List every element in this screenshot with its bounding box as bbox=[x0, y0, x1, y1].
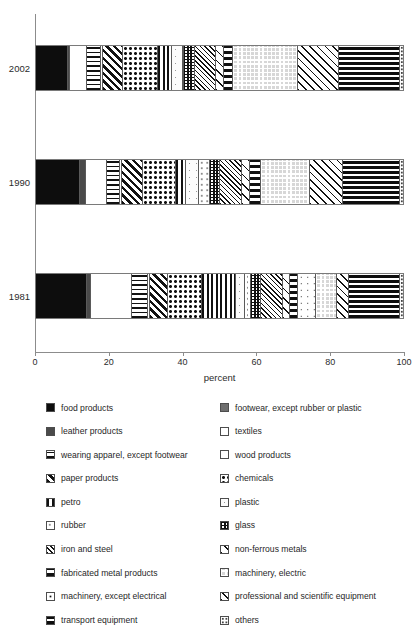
bar-segment bbox=[107, 160, 120, 204]
legend-item: textiles bbox=[220, 420, 415, 444]
legend-item: rubber bbox=[46, 514, 221, 538]
legend-item-label: food products bbox=[61, 404, 113, 413]
x-tick-label: 80 bbox=[315, 357, 345, 367]
bar-segment bbox=[36, 274, 87, 318]
bar-segment bbox=[261, 274, 283, 318]
bar-segment bbox=[36, 160, 80, 204]
legend-item: iron and steel bbox=[46, 538, 221, 562]
bar-segment bbox=[400, 46, 403, 90]
legend-swatch-icon bbox=[46, 427, 55, 436]
legend-item-label: rubber bbox=[61, 521, 86, 530]
bar-segment bbox=[132, 274, 149, 318]
x-axis-title: percent bbox=[35, 372, 404, 383]
legend-item: machinery, except electrical bbox=[46, 585, 221, 609]
legend-item: petro bbox=[46, 490, 221, 514]
legend-swatch-icon bbox=[220, 498, 229, 507]
legend-item-label: chemicals bbox=[235, 474, 273, 483]
legend-item-label: plastic bbox=[235, 498, 259, 507]
legend-swatch-icon bbox=[46, 568, 55, 577]
legend-item-label: professional and scientific equipment bbox=[235, 592, 376, 601]
legend-swatch-icon bbox=[220, 616, 229, 625]
bar-1990 bbox=[35, 159, 404, 205]
bar-segment bbox=[400, 274, 403, 318]
bar-segment bbox=[349, 274, 400, 318]
legend-swatch-icon bbox=[46, 616, 55, 625]
x-axis-line bbox=[35, 352, 404, 353]
bar-segment bbox=[103, 46, 122, 90]
bar-segment bbox=[290, 274, 298, 318]
bar-segment bbox=[70, 46, 87, 90]
bar-segment bbox=[86, 160, 107, 204]
bar-segment bbox=[176, 160, 187, 204]
legend-item: wearing apparel, except footwear bbox=[46, 443, 221, 467]
bar-segment bbox=[339, 46, 400, 90]
x-tick-label: 40 bbox=[168, 357, 198, 367]
legend-item-label: footwear, except rubber or plastic bbox=[235, 404, 362, 413]
legend-item: wood products bbox=[220, 443, 415, 467]
legend-item: food products bbox=[46, 396, 221, 420]
legend-item-label: wearing apparel, except footwear bbox=[61, 451, 188, 460]
legend-column-right: footwear, except rubber or plastictextil… bbox=[220, 396, 415, 632]
bar-segment bbox=[143, 160, 176, 204]
bar-segment bbox=[298, 274, 316, 318]
legend-item-label: paper products bbox=[61, 474, 118, 483]
legend-item-label: petro bbox=[61, 498, 81, 507]
bar-segment bbox=[343, 160, 400, 204]
bar-segment bbox=[216, 46, 223, 90]
legend-swatch-icon bbox=[46, 450, 55, 459]
bar-segment bbox=[310, 160, 343, 204]
bar-segment bbox=[233, 46, 298, 90]
y-axis-label: 1990 bbox=[0, 177, 30, 188]
legend-item: paper products bbox=[46, 467, 221, 491]
x-tick-label: 0 bbox=[20, 357, 50, 367]
legend-swatch-icon bbox=[220, 521, 229, 530]
x-tick bbox=[183, 352, 184, 356]
legend-item-label: others bbox=[235, 616, 259, 625]
x-tick bbox=[330, 352, 331, 356]
bar-segment bbox=[184, 46, 195, 90]
legend-item: machinery, electric bbox=[220, 561, 415, 585]
bar-segment bbox=[298, 46, 339, 90]
bar-segment bbox=[158, 46, 172, 90]
legend-item: fabricated metal products bbox=[46, 561, 221, 585]
legend-swatch-icon bbox=[220, 474, 229, 483]
bar-segment bbox=[236, 274, 245, 318]
y-axis-label: 2002 bbox=[0, 63, 30, 74]
bar-segment bbox=[250, 160, 261, 204]
legend-item-label: textiles bbox=[235, 427, 262, 436]
x-tick bbox=[404, 352, 405, 356]
bar-segment bbox=[251, 274, 261, 318]
bar-segment bbox=[36, 46, 68, 90]
bar-segment bbox=[87, 46, 101, 90]
legend-item: professional and scientific equipment bbox=[220, 585, 415, 609]
stacked-bar-chart: 020406080100 200219901981 percent bbox=[0, 0, 417, 390]
legend-swatch-icon bbox=[46, 403, 55, 412]
bar-segment bbox=[199, 160, 210, 204]
bar-segment bbox=[150, 274, 167, 318]
legend-item: leather products bbox=[46, 420, 221, 444]
legend-item: chemicals bbox=[220, 467, 415, 491]
legend-item: plastic bbox=[220, 490, 415, 514]
x-tick-label: 100 bbox=[389, 357, 417, 367]
bar-segment bbox=[172, 46, 183, 90]
legend-item: glass bbox=[220, 514, 415, 538]
legend-item: footwear, except rubber or plastic bbox=[220, 396, 415, 420]
y-axis-label: 1981 bbox=[0, 291, 30, 302]
legend-item-label: glass bbox=[235, 521, 255, 530]
legend-item-label: leather products bbox=[61, 427, 123, 436]
legend-swatch-icon bbox=[220, 568, 229, 577]
bar-segment bbox=[400, 160, 403, 204]
bar-segment bbox=[202, 274, 235, 318]
legend-item: others bbox=[220, 608, 415, 632]
bar-1981 bbox=[35, 273, 404, 319]
bar-segment bbox=[316, 274, 337, 318]
legend-item: non-ferrous metals bbox=[220, 538, 415, 562]
bar-segment bbox=[186, 160, 199, 204]
legend-swatch-icon bbox=[46, 498, 55, 507]
legend-swatch-icon bbox=[46, 521, 55, 530]
x-tick bbox=[109, 352, 110, 356]
legend-swatch-icon bbox=[46, 474, 55, 483]
legend-swatch-icon bbox=[220, 450, 229, 459]
x-tick-label: 60 bbox=[241, 357, 271, 367]
legend-item-label: transport equipment bbox=[61, 616, 137, 625]
